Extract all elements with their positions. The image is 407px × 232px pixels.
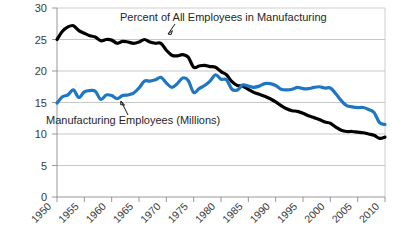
y-tick-label-25: 25 [35, 34, 47, 46]
y-tick-label-5: 5 [41, 160, 47, 172]
x-tick-label-1975: 1975 [165, 200, 190, 225]
x-tick-label-1980: 1980 [192, 200, 217, 225]
x-tick-label-1960: 1960 [83, 200, 108, 225]
x-tick-label-2010: 2010 [356, 200, 381, 225]
y-axis: 30 25 20 15 10 5 0 [35, 2, 57, 203]
chart-canvas: 30 25 20 15 10 5 0 1950 1955 1 [0, 0, 407, 232]
percent-series-annotation-label: Percent of All Employees in Manufacturin… [120, 11, 327, 23]
y-tick-label-10: 10 [35, 128, 47, 140]
x-tick-label-2005: 2005 [329, 200, 354, 225]
x-tick-label-1955: 1955 [56, 200, 81, 225]
y-tick-label-15: 15 [35, 97, 47, 109]
x-tick-label-1995: 1995 [274, 200, 299, 225]
millions-series-annotation-label: Manufacturing Employees (Millions) [46, 114, 220, 126]
y-tick-label-30: 30 [35, 2, 47, 14]
x-tick-label-2000: 2000 [302, 200, 327, 225]
manufacturing-employment-chart: 30 25 20 15 10 5 0 1950 1955 1 [0, 0, 407, 232]
y-tick-label-20: 20 [35, 65, 47, 77]
x-axis: 1950 1955 1960 1965 1970 1975 1980 1985 … [28, 197, 385, 225]
x-tick-label-1965: 1965 [110, 200, 135, 225]
x-tick-label-1985: 1985 [220, 200, 245, 225]
x-tick-label-1950: 1950 [28, 200, 53, 225]
x-tick-label-1990: 1990 [247, 200, 272, 225]
x-tick-label-1970: 1970 [138, 200, 163, 225]
